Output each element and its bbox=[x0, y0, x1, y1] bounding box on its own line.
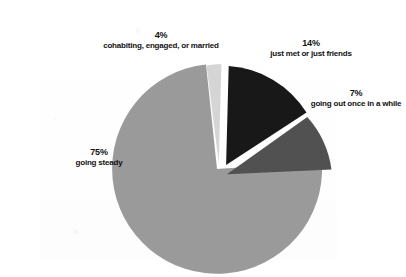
slice-label-going-steady: 75% going steady bbox=[49, 147, 149, 167]
slice-description-going-out: going out once in a while bbox=[297, 99, 406, 108]
slice-description-just-met: just met or just friends bbox=[256, 49, 366, 58]
slice-description-going-steady: going steady bbox=[49, 158, 149, 167]
slice-percent-cohabiting: 4% bbox=[96, 30, 226, 41]
slice-label-going-out: 7% going out once in a while bbox=[297, 88, 406, 108]
slice-percent-going-out: 7% bbox=[297, 88, 406, 99]
slice-label-just-met: 14% just met or just friends bbox=[256, 38, 366, 58]
slice-percent-just-met: 14% bbox=[256, 38, 366, 49]
slice-label-cohabiting: 4% cohabiting, engaged, or married bbox=[96, 30, 226, 50]
slice-description-cohabiting: cohabiting, engaged, or married bbox=[96, 41, 226, 50]
slice-percent-going-steady: 75% bbox=[49, 147, 149, 158]
pie-chart-figure: 4% cohabiting, engaged, or married 14% j… bbox=[40, 16, 337, 261]
